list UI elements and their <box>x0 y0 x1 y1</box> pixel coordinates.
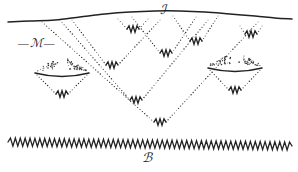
figure-canvas: ℐ ℬ —ℳ— <box>0 0 298 172</box>
diagram-svg <box>0 0 298 172</box>
zigzag-markers-group <box>56 26 257 125</box>
region-label: —ℳ— <box>18 36 55 51</box>
bulk-boundary-group <box>8 138 292 150</box>
interface-label: ℐ <box>160 2 167 18</box>
interface-curve-group <box>8 11 292 22</box>
cup-shapes-group <box>35 55 263 94</box>
bulk-label: ℬ <box>142 150 153 166</box>
